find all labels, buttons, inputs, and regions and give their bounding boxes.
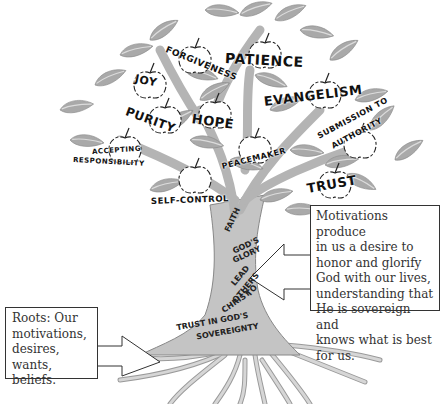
callout-line: honor and glorify: [316, 256, 434, 272]
roots-callout-arrow: [98, 336, 160, 376]
callout-line: beliefs.: [12, 373, 91, 389]
roots-callout-box: Roots: Our motivations, desires, wants, …: [5, 307, 98, 379]
callout-line: God with our lives,: [316, 271, 434, 287]
callout-line: Roots: Our: [12, 311, 91, 327]
trunk-callout-box: Motivations produce in us a desire to ho…: [310, 205, 440, 311]
callout-line: for us.: [316, 349, 434, 365]
callout-line: motivations,: [12, 327, 91, 343]
callout-line: knows what is best: [316, 333, 434, 349]
callout-line: Motivations produce: [316, 209, 434, 240]
callout-line: desires, wants,: [12, 342, 91, 373]
callout-line: He is sovereign and: [316, 302, 434, 333]
callout-line: understanding that: [316, 287, 434, 303]
callout-line: in us a desire to: [316, 240, 434, 256]
